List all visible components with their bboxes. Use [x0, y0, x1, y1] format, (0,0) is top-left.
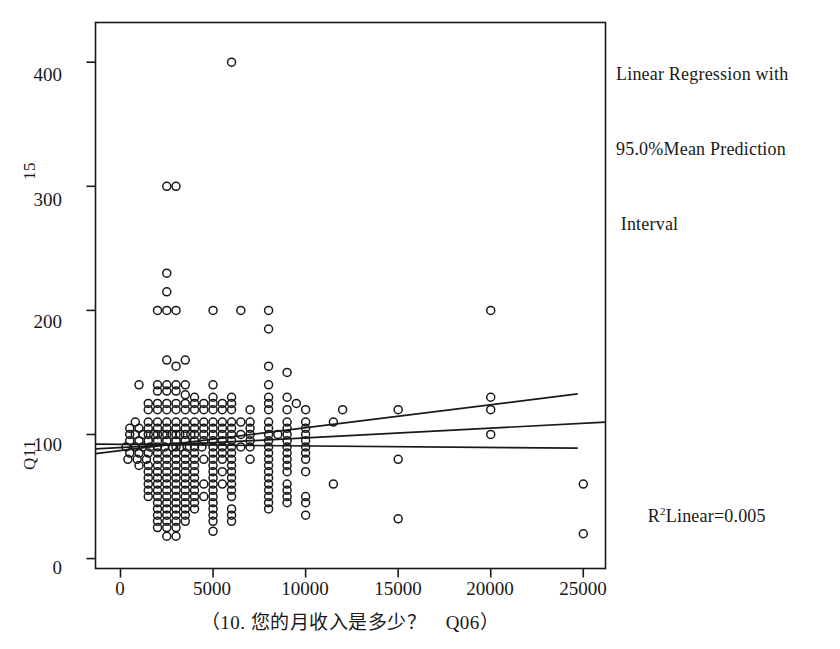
data-point [172, 182, 180, 190]
data-point [172, 532, 180, 540]
data-point [154, 306, 162, 314]
data-point [237, 418, 245, 426]
data-point [302, 468, 310, 476]
data-point [163, 306, 171, 314]
data-point [209, 306, 217, 314]
data-point [163, 532, 171, 540]
y-tick-label-200: 200 [6, 311, 62, 333]
r-squared-symbol: R [648, 506, 660, 526]
data-point [135, 381, 143, 389]
data-point [283, 406, 291, 414]
data-point [172, 362, 180, 370]
data-point [579, 480, 587, 488]
data-point [181, 391, 189, 399]
y-axis-label-q11: Q11 [20, 440, 40, 470]
data-point [394, 515, 402, 523]
x-tick-label-0: 0 [75, 578, 165, 600]
data-point [209, 527, 217, 535]
data-point [246, 406, 254, 414]
data-point [200, 493, 208, 501]
data-points [122, 58, 587, 540]
bottom-bleed-caption [185, 634, 190, 649]
data-point [265, 325, 273, 333]
data-point [283, 393, 291, 401]
data-point [265, 381, 273, 389]
data-point [163, 356, 171, 364]
data-point [394, 455, 402, 463]
data-point [163, 288, 171, 296]
y-axis-label-upper: 15 [20, 162, 40, 180]
data-point [339, 406, 347, 414]
data-point [218, 480, 226, 488]
data-point [329, 480, 337, 488]
data-point [163, 182, 171, 190]
data-point [200, 480, 208, 488]
legend-note-line-1: Linear Regression with [616, 62, 788, 87]
data-point [487, 306, 495, 314]
y-tick-marks [87, 62, 96, 558]
data-point [237, 306, 245, 314]
data-point [579, 530, 587, 538]
data-point [246, 455, 254, 463]
data-point [302, 406, 310, 414]
data-point [181, 381, 189, 389]
data-point [172, 306, 180, 314]
x-tick-label-10000: 10000 [260, 578, 350, 600]
data-point [487, 406, 495, 414]
scatter-plot-figure: 400 300 200 100 0 15 Q11 0 5000 10000 15… [0, 0, 840, 649]
data-point [283, 368, 291, 376]
x-axis-title: （10. 您的月收入是多少？ Q06） [95, 607, 605, 634]
data-point [487, 430, 495, 438]
data-point [163, 269, 171, 277]
x-tick-label-15000: 15000 [353, 578, 443, 600]
data-point [237, 443, 245, 451]
data-point [218, 468, 226, 476]
data-point [265, 362, 273, 370]
x-tick-label-20000: 20000 [445, 578, 535, 600]
x-tick-label-25000: 25000 [538, 578, 628, 600]
legend-note-line-3: Interval [616, 212, 788, 237]
x-tick-label-5000: 5000 [167, 578, 257, 600]
data-point [394, 406, 402, 414]
r-squared-note: R2Linear=0.005 [629, 485, 766, 548]
x-tick-marks [120, 569, 583, 578]
legend-note-line-2: 95.0%Mean Prediction [616, 137, 788, 162]
data-point [302, 511, 310, 519]
data-point [200, 455, 208, 463]
data-point [265, 306, 273, 314]
y-tick-label-300: 300 [6, 189, 62, 211]
data-point [209, 381, 217, 389]
data-point [292, 399, 300, 407]
data-point [181, 356, 189, 364]
r-squared-value-text: Linear=0.005 [666, 506, 766, 526]
legend-note: Linear Regression with 95.0%Mean Predict… [616, 12, 788, 287]
y-tick-label-400: 400 [6, 64, 62, 86]
data-point [237, 430, 245, 438]
y-tick-label-0: 0 [6, 557, 62, 579]
data-point [487, 393, 495, 401]
data-point [228, 58, 236, 66]
